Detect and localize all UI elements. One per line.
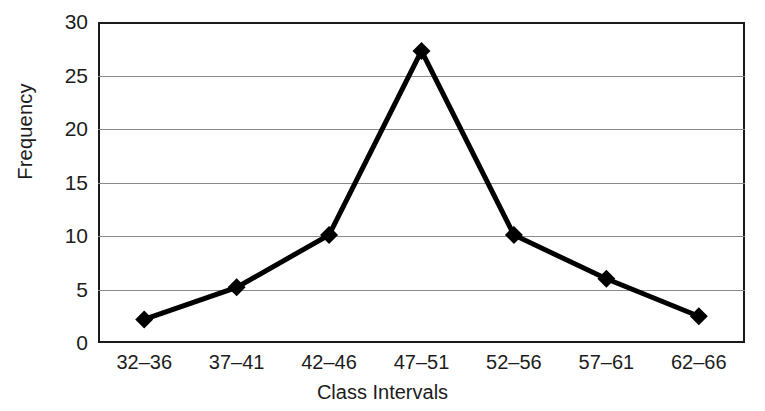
series-frequency	[98, 22, 745, 343]
frequency-polygon-chart: Frequency 051015202530 32–3637–4142–4647…	[0, 0, 765, 411]
y-tick-label: 25	[38, 65, 88, 86]
data-point-marker	[597, 270, 615, 288]
y-tick-label: 20	[38, 118, 88, 139]
plot-area	[98, 22, 745, 343]
data-point-marker	[505, 226, 523, 244]
data-point-marker	[135, 310, 153, 328]
x-tick-label: 62–66	[644, 352, 754, 372]
y-axis-title: Frequency	[14, 52, 37, 212]
y-tick-label: 0	[38, 332, 88, 353]
data-point-marker	[690, 307, 708, 325]
y-tick-label: 30	[38, 11, 88, 32]
data-point-marker	[413, 42, 431, 60]
y-tick-label: 10	[38, 225, 88, 246]
x-axis-title: Class Intervals	[0, 381, 765, 404]
y-tick-label: 15	[38, 172, 88, 193]
y-tick-label: 5	[38, 279, 88, 300]
series-line	[144, 51, 699, 320]
